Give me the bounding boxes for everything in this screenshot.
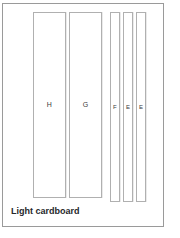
cutting-diagram: H G F E E [3,4,165,200]
piece-label-h: H [34,101,65,109]
piece-label-e-2: E [137,103,145,111]
piece-g: G [69,12,102,198]
piece-label-f: F [111,103,119,111]
caption-bar: Light cardboard [3,199,163,226]
piece-e-2: E [136,12,146,202]
piece-e-1: E [123,12,133,202]
piece-label-e-1: E [124,103,132,111]
piece-f: F [110,12,120,202]
piece-label-g: G [70,101,101,109]
figure-card: H G F E E Light cardboard [2,3,164,227]
material-caption: Light cardboard [11,206,80,217]
piece-h: H [33,12,66,198]
